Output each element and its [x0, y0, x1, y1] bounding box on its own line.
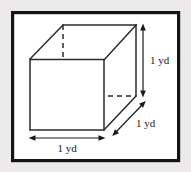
- cube-front-face: [30, 59, 104, 130]
- depth-label: 1 yd: [136, 117, 156, 129]
- figure-container: 1 yd 1 yd 1 yd: [0, 0, 191, 172]
- height-label: 1 yd: [150, 54, 170, 66]
- width-label: 1 yd: [57, 142, 77, 154]
- cube-diagram: 1 yd 1 yd 1 yd: [0, 0, 191, 172]
